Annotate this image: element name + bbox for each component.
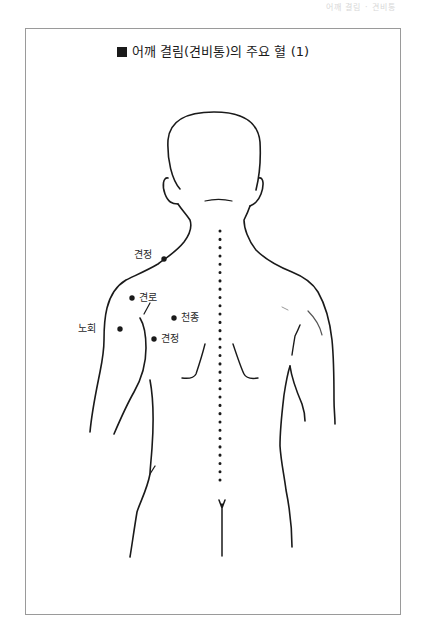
neck-right-shoulder	[244, 206, 335, 424]
right-inner-arm	[290, 366, 305, 421]
acupoint-label-cheonjong: 천종	[181, 313, 199, 323]
left-torso-side	[130, 380, 153, 557]
right-scapula-mark	[282, 307, 288, 310]
right-arm-fold	[292, 325, 300, 355]
right-torso-side	[280, 366, 292, 547]
acupoint-label-gyeonjeong-upper: 견정	[134, 250, 152, 260]
body-illustration	[0, 0, 426, 638]
left-shoulder-blade	[182, 344, 205, 378]
right-deltoid-line	[308, 311, 322, 335]
left-shoulder-crease	[144, 303, 150, 314]
acupoint-dot-gyeonjeong-lower	[151, 336, 156, 341]
acupoint-dot-cheonjong	[171, 315, 176, 320]
buttock-cleft	[219, 500, 225, 556]
acupoint-label-gyeonro: 견로	[139, 293, 157, 303]
head-outline	[168, 112, 260, 190]
acupoint-dot-gyeonro	[129, 295, 134, 300]
acupoint-dot-gyeonjeong-upper	[161, 256, 166, 261]
acupoint-dot-nohoe	[117, 326, 122, 331]
left-inner-arm	[114, 318, 146, 434]
acupoint-label-nohoe: 노회	[78, 324, 96, 334]
nape-line	[205, 200, 232, 202]
acupoint-label-gyeonjeong-lower: 견정	[161, 334, 179, 344]
right-shoulder-blade	[233, 344, 258, 378]
right-ear	[250, 178, 263, 206]
